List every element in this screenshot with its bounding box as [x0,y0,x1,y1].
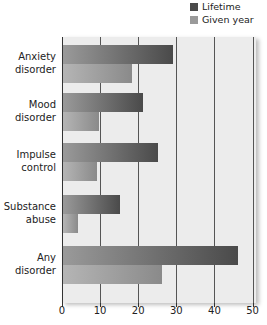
bar-lifetime [63,143,158,162]
bar-lifetime [63,246,238,265]
x-tick-label: 10 [90,305,110,316]
bar-given-year [63,162,97,181]
x-tick-label: 0 [52,305,72,316]
legend-label-year: Given year [202,13,254,26]
bar-lifetime [63,93,143,112]
category-label: Substanceabuse [0,200,56,226]
legend-item-lifetime: Lifetime [190,0,254,13]
legend-swatch-lifetime [190,3,198,11]
bar-given-year [63,64,132,83]
category-label: Anydisorder [0,251,56,277]
x-tick-label: 30 [166,305,186,316]
x-tick-label: 50 [243,305,263,316]
bar-lifetime [63,195,120,214]
category-label: Anxietydisorder [0,50,56,76]
legend-label-lifetime: Lifetime [202,0,241,13]
category-label: Impulsecontrol [0,148,56,174]
category-label: Mooddisorder [0,98,56,124]
x-tick-label: 40 [204,305,224,316]
legend: Lifetime Given year [190,0,254,26]
gridline [253,37,254,303]
bar-lifetime [63,45,173,64]
x-tick-label: 20 [128,305,148,316]
plot-area [62,37,256,303]
legend-swatch-year [190,16,198,24]
bar-given-year [63,112,99,131]
bar-given-year [63,265,162,284]
bar-given-year [63,214,78,233]
legend-item-year: Given year [190,13,254,26]
